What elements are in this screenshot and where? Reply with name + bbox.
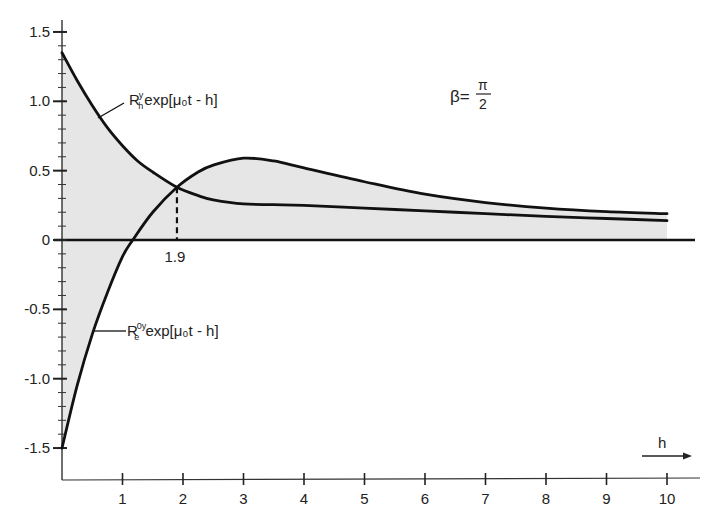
tick-labels: 1.51.00.50-0.5-1.0-1.512345678910 [24, 23, 675, 507]
svg-text:π: π [478, 77, 488, 93]
shaded-areas [62, 53, 667, 448]
y-tick-label: -1.0 [24, 370, 50, 387]
axes [53, 20, 700, 485]
svg-text:2: 2 [479, 96, 487, 112]
x-axis [62, 478, 700, 480]
svg-text:β=: β= [450, 87, 470, 106]
lower-curve-label: R0yeexp[μ₀t - h] [127, 321, 219, 342]
chart: 1.51.00.50-0.5-1.0-1.512345678910 1.9 Ry… [0, 0, 719, 523]
y-tick-label: -1.5 [24, 439, 50, 456]
x-tick-label: 5 [360, 490, 368, 507]
y-tick-label: 1.5 [29, 23, 50, 40]
svg-text:h: h [658, 434, 666, 451]
x-tick-label: 10 [659, 490, 676, 507]
intersection-label: 1.9 [165, 248, 186, 265]
upper-curve-label: Ryhexp[μ₀t - h] [129, 90, 218, 111]
upper-curve-leader-line [98, 103, 124, 118]
x-tick-label: 7 [481, 490, 489, 507]
x-tick-label: 1 [118, 490, 126, 507]
h-axis-arrow: h [642, 434, 692, 460]
x-tick-label: 4 [300, 490, 308, 507]
x-tick-label: 2 [179, 490, 187, 507]
x-tick-label: 3 [239, 490, 247, 507]
beta-annotation: β= π 2 [450, 77, 491, 112]
x-tick-label: 8 [542, 490, 550, 507]
x-tick-label: 9 [602, 490, 610, 507]
x-tick-label: 6 [421, 490, 429, 507]
y-tick-label: -0.5 [24, 300, 50, 317]
y-tick-label: 0 [42, 231, 50, 248]
curves [62, 53, 667, 448]
y-tick-label: 1.0 [29, 92, 50, 109]
y-tick-label: 0.5 [29, 162, 50, 179]
